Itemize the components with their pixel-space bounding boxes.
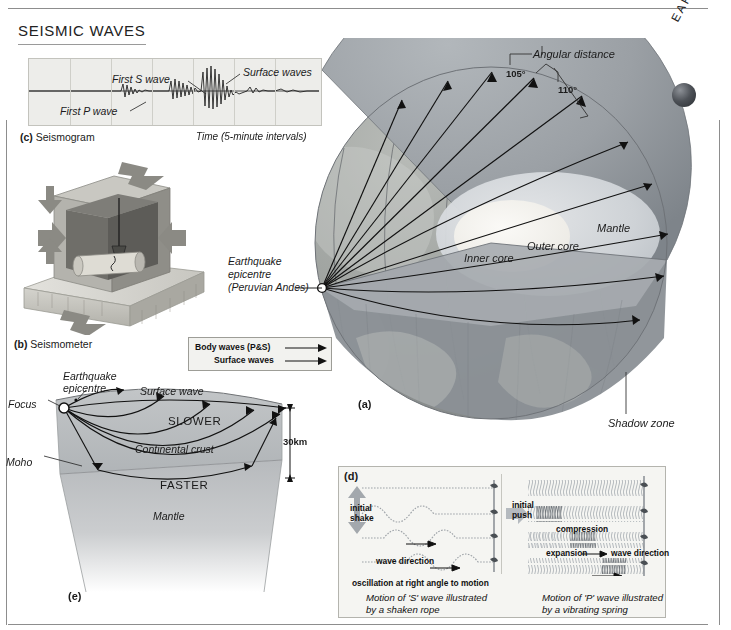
p-wave-caption-line-1: Motion of 'P' wave illustrated — [542, 592, 663, 604]
panel-a-label: (a) — [358, 398, 371, 410]
page-left-rule — [6, 120, 7, 625]
expansion-label: expansion — [546, 548, 587, 558]
inner-core-label: Inner core — [464, 252, 514, 264]
legend-body-waves-label: Body waves (P&S) — [195, 342, 270, 352]
initial-push-line-2: push — [512, 510, 534, 520]
initial-shake-line-2: shake — [350, 513, 374, 523]
page-top-rule — [8, 8, 708, 9]
angular-distance-label: Angular distance — [533, 48, 615, 60]
seismogram-leader-lines — [100, 62, 280, 114]
focus-marker — [59, 403, 69, 413]
legend-surface-waves-label: Surface waves — [214, 355, 274, 365]
seismometer-figure — [18, 160, 208, 335]
shadow-zone-label: Shadow zone — [608, 417, 675, 429]
crust-cross-section-figure — [14, 378, 304, 598]
s-wave-caption-line-2: by a shaken rope — [366, 604, 487, 616]
focus-label: Focus — [8, 398, 37, 410]
panel-b-label: (b) — [14, 338, 27, 350]
initial-push-line-1: initial — [512, 500, 534, 510]
crust-epicentre-label: Earthquake epicentre — [63, 370, 117, 394]
seismometer-caption: (b) Seismometer — [14, 338, 92, 350]
seismogram-caption: (c) Seismogram — [20, 131, 95, 143]
panel-e-label: (e) — [68, 590, 81, 602]
seismometer-caption-text: Seismometer — [30, 338, 92, 350]
compression-label: compression — [556, 524, 608, 534]
mantle-label: Mantle — [597, 222, 630, 234]
s-wave-direction-label: wave direction — [376, 556, 434, 566]
slower-label: SLOWER — [168, 415, 221, 427]
seismogram-caption-text: Seismogram — [36, 131, 95, 143]
page-right-rule — [719, 120, 720, 625]
title-underline — [18, 44, 146, 45]
p-wave-direction-label: wave direction — [611, 548, 669, 558]
surface-wave-label: Surface wave — [140, 385, 204, 397]
p-wave-caption: Motion of 'P' wave illustrated by a vibr… — [542, 592, 663, 616]
crust-mantle-label: Mantle — [153, 510, 185, 522]
angle-110-label: 110° — [558, 84, 577, 95]
wave-type-legend: Body waves (P&S) Surface waves — [188, 337, 332, 371]
oscillation-label: oscillation at right angle to motion — [352, 578, 489, 588]
mini-globe-icon — [672, 83, 696, 107]
epicentre-line-1: Earthquake — [228, 255, 309, 268]
legend-arrows — [285, 340, 329, 368]
continental-crust-label: Continental crust — [135, 443, 214, 455]
moho-label: Moho — [6, 456, 32, 468]
crust-epicentre-line-1: Earthquake — [63, 370, 117, 382]
page-bottom-rule — [8, 624, 708, 625]
initial-shake-line-1: initial — [350, 503, 374, 513]
faster-label: FASTER — [160, 479, 208, 491]
panel-c-label: (c) — [20, 131, 33, 143]
page-title: SEISMIC WAVES — [18, 22, 145, 39]
initial-push-label: initial push — [512, 500, 534, 520]
epicentre-leader-line — [296, 282, 328, 294]
seismogram-time-axis-label: Time (5-minute intervals) — [196, 131, 307, 142]
p-wave-caption-line-2: by a vibrating spring — [542, 604, 663, 616]
s-wave-caption-line-1: Motion of 'S' wave illustrated — [366, 592, 487, 604]
depth-30km-label: 30km — [283, 436, 307, 447]
crust-epicentre-line-2: epicentre — [63, 382, 117, 394]
s-wave-caption: Motion of 'S' wave illustrated by a shak… — [366, 592, 487, 616]
angle-105-label: 105° — [506, 68, 526, 79]
earth-cross-section-figure — [296, 38, 716, 438]
earth-title-text: EARTH — [669, 0, 704, 24]
outer-core-label: Outer core — [527, 240, 579, 252]
epicentre-line-2: epicentre — [228, 268, 309, 281]
initial-shake-label: initial shake — [350, 503, 374, 523]
